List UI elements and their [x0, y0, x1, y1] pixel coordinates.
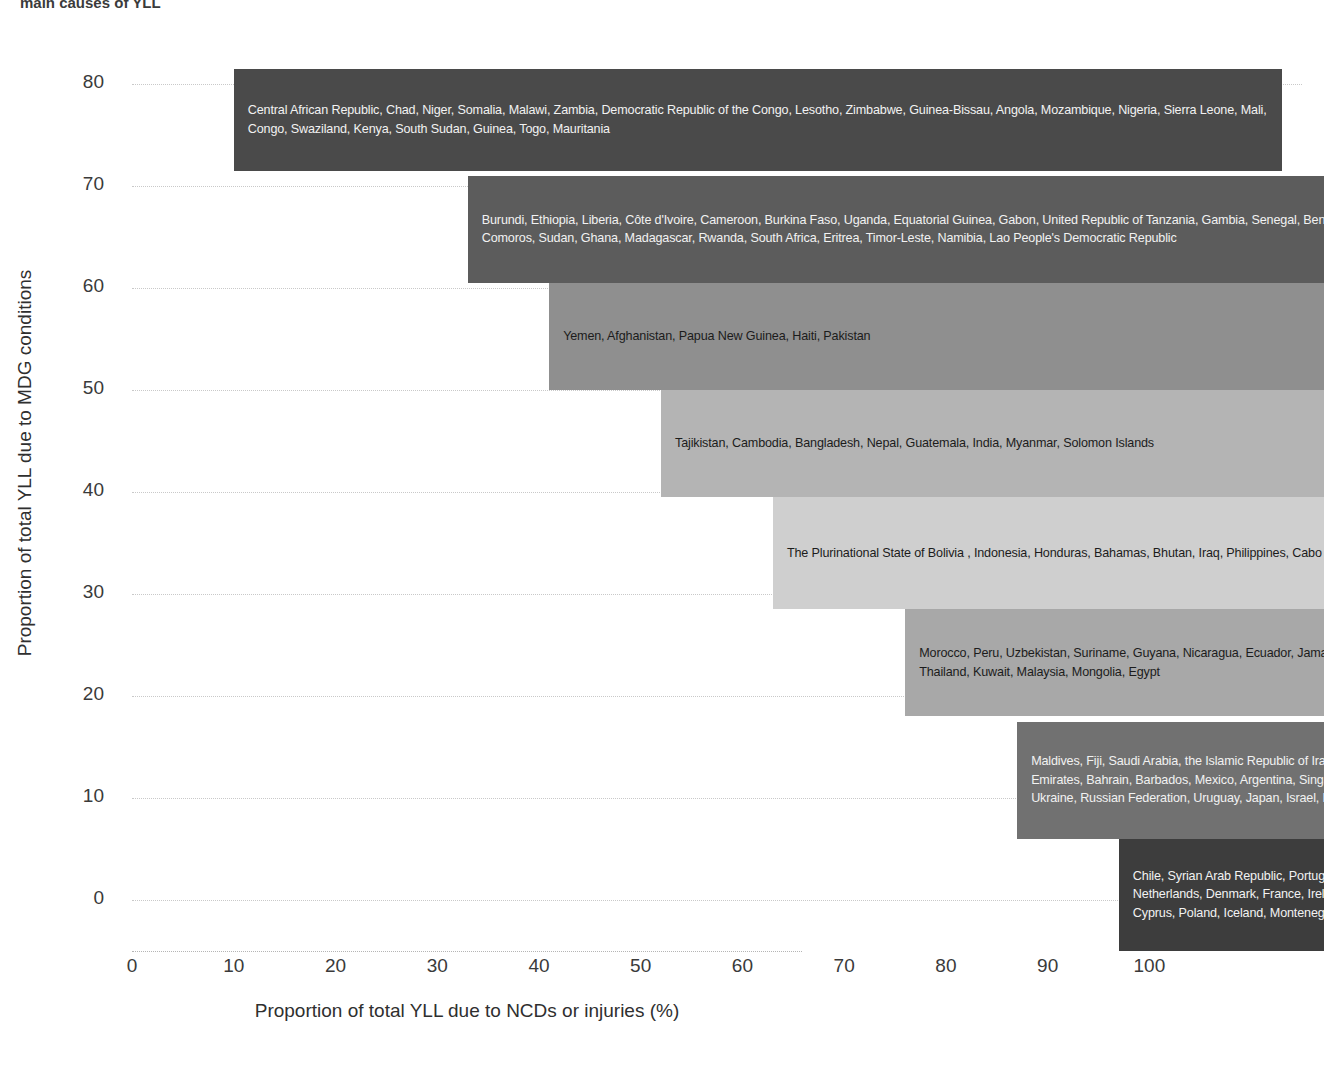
bar-label-band-7: Maldives, Fiji, Saudi Arabia, the Islami…: [1031, 752, 1324, 808]
y-tick-20: 20: [60, 683, 104, 705]
plot-area: Central African Republic, Chad, Niger, S…: [132, 33, 1302, 951]
x-axis-label: Proportion of total YLL due to NCDs or i…: [132, 1000, 802, 1022]
bar-band-4[interactable]: Tajikistan, Cambodia, Bangladesh, Nepal,…: [661, 390, 1324, 497]
y-tick-50: 50: [60, 377, 104, 399]
y-tick-10: 10: [60, 785, 104, 807]
bar-band-3[interactable]: Yemen, Afghanistan, Papua New Guinea, Ha…: [549, 283, 1324, 390]
x-axis-line: [132, 951, 802, 952]
bar-label-band-1: Central African Republic, Chad, Niger, S…: [248, 101, 1272, 138]
bar-label-band-8: Chile, Syrian Arab Republic, Portugal, G…: [1133, 867, 1324, 923]
bar-band-7[interactable]: Maldives, Fiji, Saudi Arabia, the Islami…: [1017, 722, 1324, 839]
bar-band-1[interactable]: Central African Republic, Chad, Niger, S…: [234, 69, 1282, 171]
chart-figure: main causes of YLL Central African Repub…: [0, 0, 1324, 1074]
x-tick-70: 70: [814, 955, 874, 977]
bar-band-8[interactable]: Chile, Syrian Arab Republic, Portugal, G…: [1119, 839, 1324, 951]
bar-label-band-4: Tajikistan, Cambodia, Bangladesh, Nepal,…: [675, 434, 1324, 453]
bar-label-band-3: Yemen, Afghanistan, Papua New Guinea, Ha…: [563, 327, 1324, 346]
x-tick-40: 40: [509, 955, 569, 977]
x-tick-60: 60: [712, 955, 772, 977]
x-tick-20: 20: [305, 955, 365, 977]
bar-label-band-6: Morocco, Peru, Uzbekistan, Suriname, Guy…: [919, 644, 1324, 681]
y-tick-0: 0: [60, 887, 104, 909]
x-tick-0: 0: [102, 955, 162, 977]
x-tick-50: 50: [611, 955, 671, 977]
y-axis-label: Proportion of total YLL due to MDG condi…: [14, 83, 36, 843]
y-tick-70: 70: [60, 173, 104, 195]
bar-label-band-5: The Plurinational State of Bolivia , Ind…: [787, 544, 1324, 563]
x-tick-100: 100: [1119, 955, 1179, 977]
bar-band-6[interactable]: Morocco, Peru, Uzbekistan, Suriname, Guy…: [905, 609, 1324, 716]
bar-band-2[interactable]: Burundi, Ethiopia, Liberia, Côte d'Ivoir…: [468, 176, 1324, 283]
bar-band-5[interactable]: The Plurinational State of Bolivia , Ind…: [773, 497, 1324, 609]
x-tick-90: 90: [1018, 955, 1078, 977]
y-tick-30: 30: [60, 581, 104, 603]
y-tick-60: 60: [60, 275, 104, 297]
y-tick-80: 80: [60, 71, 104, 93]
x-tick-10: 10: [204, 955, 264, 977]
chart-title: main causes of YLL: [20, 0, 440, 12]
x-tick-80: 80: [916, 955, 976, 977]
y-tick-40: 40: [60, 479, 104, 501]
x-tick-30: 30: [407, 955, 467, 977]
bar-label-band-2: Burundi, Ethiopia, Liberia, Côte d'Ivoir…: [482, 211, 1324, 248]
